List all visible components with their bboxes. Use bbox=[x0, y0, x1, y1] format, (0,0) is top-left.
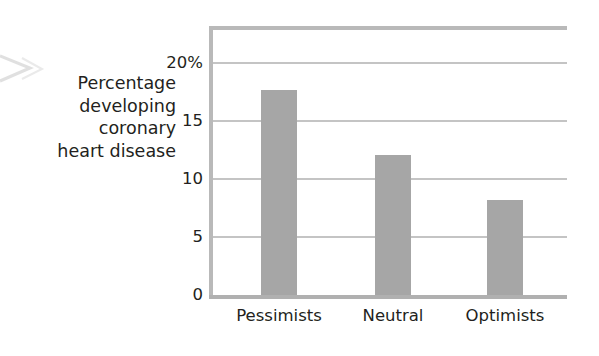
y-tick-label-15: 15 bbox=[143, 113, 203, 130]
y-tick-label-0: 0 bbox=[143, 287, 203, 304]
bar-optimists bbox=[487, 200, 523, 295]
x-axis-tick-labels: Pessimists Neutral Optimists bbox=[209, 306, 567, 336]
x-tick-label-optimists: Optimists bbox=[435, 306, 575, 326]
bar-neutral bbox=[375, 155, 411, 295]
y-tick-label-5: 5 bbox=[143, 229, 203, 246]
gridline-20 bbox=[213, 62, 567, 64]
bar-chart-figure: Percentage developing coronary heart dis… bbox=[0, 0, 599, 356]
plot-area bbox=[209, 26, 567, 299]
bar-pessimists bbox=[261, 90, 297, 295]
plot-baseline bbox=[209, 295, 567, 299]
y-axis-tick-labels: 20% 15 10 5 0 bbox=[141, 0, 203, 320]
y-tick-label-10: 10 bbox=[143, 171, 203, 188]
plot-frame-top bbox=[209, 26, 567, 30]
plot-frame-left bbox=[209, 26, 213, 299]
y-tick-label-20: 20% bbox=[143, 55, 203, 72]
